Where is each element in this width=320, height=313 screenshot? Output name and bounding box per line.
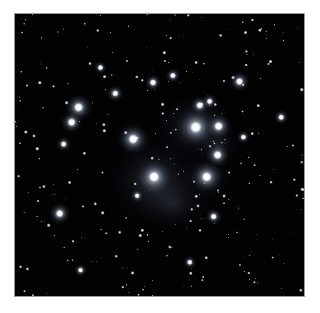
field-star	[282, 191, 283, 192]
field-star	[96, 261, 98, 263]
field-star	[188, 293, 189, 294]
field-star	[244, 36, 245, 37]
field-star	[210, 52, 211, 53]
field-star	[150, 134, 151, 135]
field-star	[183, 286, 184, 287]
field-star	[300, 40, 301, 41]
field-star	[149, 48, 150, 49]
bright-field-star-a	[202, 93, 218, 109]
field-star	[252, 225, 253, 226]
field-star	[63, 246, 65, 248]
field-star	[173, 163, 175, 165]
field-star	[272, 207, 273, 208]
field-star	[83, 22, 86, 25]
field-star	[81, 237, 82, 238]
field-star	[45, 115, 46, 116]
field-star	[237, 123, 238, 124]
field-star	[189, 219, 192, 222]
field-star	[42, 107, 44, 109]
field-star	[153, 290, 154, 291]
field-star	[223, 202, 226, 205]
field-star	[77, 168, 79, 170]
field-star	[282, 39, 284, 41]
field-star	[228, 234, 229, 235]
field-star	[269, 205, 270, 206]
field-star	[186, 71, 188, 73]
field-star	[104, 103, 105, 104]
field-star	[262, 196, 263, 197]
field-star	[100, 243, 101, 244]
field-star	[18, 107, 19, 108]
field-star	[97, 161, 98, 162]
field-star	[251, 18, 255, 22]
field-star	[38, 157, 40, 159]
field-star	[213, 83, 214, 84]
bright-field-star-m-core	[187, 259, 193, 265]
field-star	[203, 62, 206, 65]
field-star	[167, 235, 168, 236]
field-star	[169, 36, 172, 39]
bright-field-star-h-core	[61, 141, 67, 147]
bright-field-star-b	[229, 71, 251, 93]
field-star	[228, 171, 231, 174]
field-star	[26, 119, 27, 120]
field-star	[38, 81, 42, 85]
field-star	[53, 147, 54, 148]
field-star	[259, 174, 261, 176]
field-star	[131, 271, 135, 275]
field-star	[100, 229, 101, 230]
field-star	[243, 218, 245, 220]
field-star	[160, 102, 164, 106]
field-star	[243, 18, 244, 19]
field-star	[79, 283, 80, 284]
field-star	[43, 76, 44, 77]
field-star	[42, 185, 46, 189]
field-star	[186, 228, 187, 229]
field-star	[98, 219, 99, 220]
field-star	[54, 235, 56, 237]
field-star	[91, 260, 93, 262]
pleione-core	[67, 118, 75, 126]
field-star	[137, 248, 139, 250]
bright-field-star-d	[144, 74, 162, 92]
field-star	[222, 79, 225, 82]
field-star	[224, 139, 226, 141]
field-star	[200, 92, 201, 93]
field-star	[196, 204, 200, 208]
field-star	[18, 158, 19, 159]
field-star	[192, 218, 193, 219]
field-star	[290, 129, 291, 130]
maia-core	[202, 172, 212, 182]
field-star	[102, 123, 106, 127]
field-star	[295, 194, 298, 197]
field-star	[20, 70, 23, 73]
field-star	[248, 182, 250, 184]
field-star	[155, 133, 157, 135]
field-star	[29, 15, 30, 16]
field-star	[228, 199, 230, 201]
field-star	[236, 16, 237, 17]
field-star	[87, 46, 88, 47]
field-star	[198, 229, 202, 233]
page-root	[0, 0, 320, 313]
field-star	[138, 233, 142, 237]
field-star	[101, 171, 104, 174]
field-star	[142, 289, 144, 291]
field-star	[249, 255, 251, 257]
bright-field-star-l	[130, 189, 144, 203]
field-star	[253, 164, 256, 167]
field-star	[24, 189, 25, 190]
field-star	[279, 232, 280, 233]
field-star	[300, 154, 302, 156]
bright-field-star-g	[205, 208, 223, 226]
field-star	[301, 209, 302, 210]
field-star	[185, 38, 186, 39]
field-star	[144, 286, 146, 288]
field-star	[17, 33, 18, 34]
field-star	[166, 146, 169, 149]
field-star	[282, 32, 284, 34]
figure-caption	[14, 301, 54, 309]
field-star	[102, 129, 106, 133]
field-star	[28, 192, 29, 193]
field-star	[258, 133, 260, 135]
